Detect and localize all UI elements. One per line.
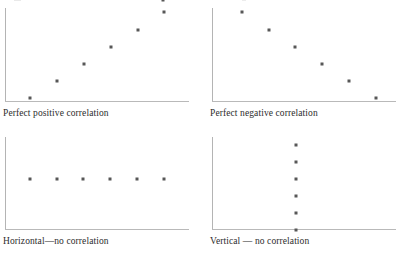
data-point xyxy=(29,178,32,181)
y-axis xyxy=(5,137,6,229)
panel-caption: Vertical — no correlation xyxy=(210,234,309,248)
panel-caption: Horizontal—no correlation xyxy=(3,234,109,248)
data-point xyxy=(295,161,298,164)
x-axis xyxy=(5,229,189,230)
data-point xyxy=(163,178,166,181)
data-point xyxy=(295,195,298,198)
x-axis xyxy=(212,229,396,230)
data-point xyxy=(29,97,32,100)
y-axis xyxy=(212,137,213,229)
data-point xyxy=(295,178,298,181)
panel-vertical-none: Vertical — no correlation xyxy=(203,128,406,256)
data-point xyxy=(295,212,298,215)
data-point xyxy=(294,46,297,49)
data-point xyxy=(82,178,85,181)
plot-area-perfect-negative xyxy=(203,0,406,105)
data-point xyxy=(56,80,59,83)
data-point xyxy=(162,0,165,2)
data-point xyxy=(268,29,271,32)
plot-area-horizontal-none xyxy=(0,128,203,233)
data-point xyxy=(110,46,113,49)
panel-horizontal-none: Horizontal—no correlation xyxy=(0,128,203,256)
data-point xyxy=(375,97,378,100)
data-point xyxy=(83,63,86,66)
data-point xyxy=(295,144,298,147)
data-point xyxy=(109,178,112,181)
plot-area-vertical-none xyxy=(203,128,406,233)
data-point xyxy=(137,29,140,32)
panel-perfect-positive: Perfect positive correlation xyxy=(0,0,203,128)
data-point xyxy=(321,63,324,66)
data-point xyxy=(348,80,351,83)
panel-caption: Perfect negative correlation xyxy=(210,106,318,120)
correlation-figure: Perfect positive correlation Perfect neg… xyxy=(0,0,406,256)
x-axis xyxy=(212,101,396,102)
y-axis xyxy=(5,8,6,101)
data-point xyxy=(136,178,139,181)
data-point xyxy=(241,11,244,14)
data-point xyxy=(56,178,59,181)
panel-perfect-negative: Perfect negative correlation xyxy=(203,0,406,128)
x-axis xyxy=(5,101,189,102)
y-axis xyxy=(212,8,213,101)
panel-caption: Perfect positive correlation xyxy=(3,106,109,120)
data-point xyxy=(295,229,298,232)
plot-area-perfect-positive xyxy=(0,0,203,105)
data-point xyxy=(163,11,166,14)
